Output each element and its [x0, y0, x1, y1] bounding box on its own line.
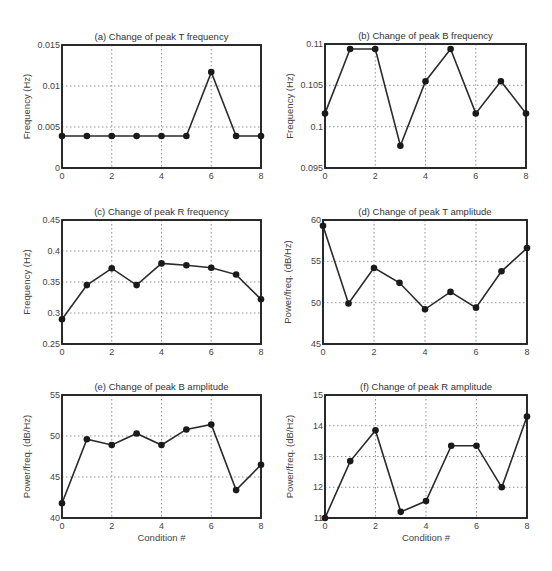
data-point-marker: [447, 46, 454, 53]
x-tick-label: 4: [423, 171, 428, 181]
y-tick-label: 0: [55, 163, 60, 173]
subplot-f: (f) Change of peak R amplitude Power/fre…: [284, 381, 530, 543]
data-point-marker: [345, 300, 352, 307]
y-tick-label: 55: [311, 256, 321, 266]
y-tick-label: 11: [314, 513, 323, 523]
data-point-marker: [371, 265, 378, 272]
data-point-marker: [258, 461, 265, 468]
subplot-e: (e) Change of peak B amplitude Power/fre…: [21, 381, 264, 543]
data-point-marker: [396, 280, 403, 287]
data-point-marker: [108, 133, 115, 140]
y-tick-label: 60: [311, 215, 321, 225]
x-tick-label: 0: [59, 521, 64, 531]
x-tick-label: 2: [109, 347, 114, 357]
y-tick-label: 45: [50, 472, 60, 482]
subplot-d: (d) Change of peak T amplitude Power/fre…: [282, 206, 530, 357]
x-tick-label: 0: [322, 521, 327, 531]
data-point-marker: [347, 46, 354, 53]
x-tick-label: 2: [109, 521, 114, 531]
y-tick-label: 45: [311, 339, 321, 349]
y-tick-label: 0.35: [42, 277, 60, 287]
data-point-marker: [422, 306, 429, 313]
data-point-marker: [233, 271, 240, 278]
subplot-a: (a) Change of peak T frequency Frequency…: [21, 31, 264, 181]
data-point-marker: [347, 458, 354, 465]
x-tick-label: 6: [473, 347, 478, 357]
y-tick-label: 13: [313, 452, 323, 462]
x-tick-label: 4: [422, 347, 427, 357]
data-point-marker: [473, 442, 480, 449]
x-tick-label: 8: [524, 347, 529, 357]
data-point-marker: [447, 289, 454, 296]
x-tick-label: 4: [159, 171, 164, 181]
y-tick-label: 0.015: [37, 40, 60, 50]
x-tick-label: 6: [209, 347, 214, 357]
data-point-marker: [84, 282, 91, 289]
data-point-marker: [108, 442, 115, 449]
x-tick-label: 2: [373, 521, 378, 531]
figure-grid: (a) Change of peak T frequency Frequency…: [0, 0, 552, 571]
data-point-marker: [158, 442, 165, 449]
data-point-marker: [397, 142, 404, 149]
subplot-title: (a) Change of peak T frequency: [95, 31, 229, 42]
data-point-marker: [108, 265, 115, 272]
y-tick-label: 0.45: [42, 215, 60, 225]
x-tick-label: 6: [473, 171, 478, 181]
subplot-c: (c) Change of peak R frequency Frequency…: [21, 206, 264, 357]
data-point-marker: [473, 304, 480, 311]
data-point-marker: [208, 69, 215, 76]
x-tick-label: 8: [524, 521, 529, 531]
y-tick-label: 55: [50, 390, 60, 400]
data-point-marker: [524, 413, 531, 420]
y-axis-label: Power/freq. (dB/Hz): [282, 240, 293, 323]
data-point-marker: [423, 498, 430, 505]
y-tick-label: 12: [313, 482, 323, 492]
y-tick-label: 0.11: [306, 39, 323, 49]
data-point-marker: [258, 296, 265, 303]
x-tick-label: 4: [159, 521, 164, 531]
y-axis-label: Frequency (Hz): [21, 74, 32, 139]
y-axis-label: Power/freq. (dB/Hz): [21, 415, 32, 498]
x-tick-label: 8: [258, 521, 263, 531]
data-point-marker: [258, 133, 265, 140]
y-tick-label: 50: [50, 431, 60, 441]
x-tick-label: 6: [474, 521, 479, 531]
x-tick-label: 2: [371, 347, 376, 357]
data-point-marker: [472, 110, 479, 117]
data-point-marker: [397, 509, 404, 516]
data-point-marker: [208, 421, 215, 428]
data-point-marker: [158, 260, 165, 267]
y-tick-label: 0.1: [310, 122, 323, 132]
x-tick-label: 0: [322, 171, 327, 181]
subplot-title: (d) Change of peak T amplitude: [358, 206, 491, 217]
x-tick-label: 0: [320, 347, 325, 357]
data-point-marker: [84, 436, 91, 443]
y-tick-label: 15: [313, 390, 323, 400]
x-tick-label: 4: [159, 347, 164, 357]
subplot-title: (e) Change of peak B amplitude: [94, 381, 228, 392]
data-point-marker: [133, 133, 140, 140]
data-point-marker: [233, 487, 240, 494]
subplot-title: (c) Change of peak R frequency: [94, 206, 229, 217]
x-tick-label: 8: [523, 171, 528, 181]
data-point-marker: [183, 262, 190, 269]
data-point-marker: [322, 110, 329, 117]
data-point-marker: [183, 133, 190, 140]
subplot-title: (f) Change of peak R amplitude: [360, 381, 492, 392]
data-point-marker: [322, 515, 329, 522]
y-tick-label: 0.005: [37, 122, 60, 132]
data-point-marker: [59, 316, 66, 323]
x-tick-label: 8: [258, 171, 263, 181]
x-tick-label: 8: [258, 347, 263, 357]
x-tick-label: 4: [423, 521, 428, 531]
y-axis-label: Power/freq. (dB/Hz): [284, 415, 295, 498]
subplot-title: (b) Change of peak B frequency: [358, 30, 493, 41]
y-tick-label: 0.4: [47, 246, 60, 256]
data-point-marker: [133, 430, 140, 437]
data-point-marker: [133, 282, 140, 289]
x-tick-label: 6: [209, 521, 214, 531]
x-tick-label: 6: [209, 171, 214, 181]
data-point-marker: [208, 264, 215, 271]
data-point-marker: [524, 245, 531, 252]
data-point-marker: [183, 426, 190, 433]
